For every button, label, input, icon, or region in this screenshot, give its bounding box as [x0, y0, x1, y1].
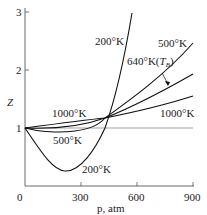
label-200K-top: 200°K: [95, 35, 124, 47]
label-200K-bottom: 200°K: [82, 163, 111, 175]
x-tick-label-900: 900: [184, 191, 201, 203]
label-500K-bottom: 500°K: [53, 134, 82, 146]
y-tick-label-1: 1: [16, 122, 22, 134]
label-1000K-right: 1000°K: [160, 107, 194, 119]
y-axis-label: Z: [7, 96, 14, 108]
label-640K: 640°K(TB): [127, 55, 174, 69]
label-500K-top: 500°K: [158, 37, 187, 49]
x-tick-label-0: 0: [17, 191, 23, 203]
x-tick-label-600: 600: [128, 191, 145, 203]
y-tick-label-2: 2: [16, 64, 22, 76]
label-1000K-left: 1000°K: [52, 107, 86, 119]
x-tick-label-300: 300: [72, 191, 89, 203]
x-axis-label: p, atm: [97, 202, 125, 214]
arrow-head-icon: [165, 81, 170, 86]
chart: 3 2 1 Z 0 300 600 900 p, atm 200°K 200°K…: [0, 0, 207, 215]
y-tick-label-3: 3: [16, 6, 22, 18]
